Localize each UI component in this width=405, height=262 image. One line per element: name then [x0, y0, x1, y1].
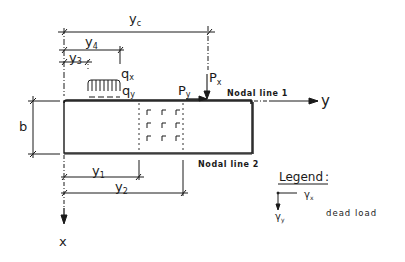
dimension-b: [28, 96, 60, 158]
y-axis: [254, 98, 318, 104]
label-qx: qx: [121, 66, 134, 82]
label-y2: y2: [115, 179, 128, 196]
legend-title: Legend:: [279, 170, 329, 184]
label-y4: y4: [85, 34, 98, 51]
label-py: Py: [178, 83, 191, 99]
label-yc: yc: [129, 11, 141, 28]
label-y-axis: y: [321, 92, 330, 110]
label-nodal-line-2: Nodal line 2: [198, 160, 259, 169]
legend-gamma-x: γx: [304, 189, 314, 201]
label-y3: y3: [69, 50, 82, 66]
label-nodal-line-1: Nodal line 1: [227, 89, 288, 98]
label-b: b: [19, 119, 27, 134]
legend-gamma-y: γy: [275, 211, 285, 224]
x-axis: [61, 155, 67, 224]
legend-dead-load: dead load: [326, 208, 377, 218]
label-y1: y1: [92, 163, 105, 180]
element-grid-marks: [147, 110, 180, 141]
distributed-load-qx: [88, 80, 120, 91]
legend-axis-symbol: [276, 192, 297, 210]
label-qy: qy: [122, 83, 135, 99]
label-px: Px: [209, 70, 222, 87]
structural-diagram: yc y4 y3 qx qy Px Py Nodal line 1 y b No…: [0, 0, 405, 262]
label-x-axis: x: [59, 234, 67, 249]
plate: [64, 100, 253, 154]
